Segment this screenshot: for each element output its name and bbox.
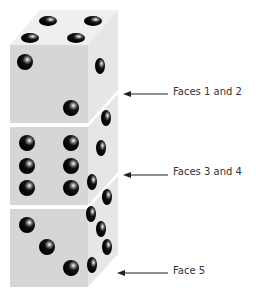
arrow-faces-1-2 [123, 91, 168, 97]
label-faces-3-4: Faces 3 and 4 [173, 166, 242, 177]
label-face-5: Face 5 [173, 265, 205, 276]
arrow-face-5 [117, 270, 168, 276]
arrow-faces-3-4 [123, 172, 168, 178]
stacked-dice-diagram [0, 0, 256, 296]
label-faces-1-2: Faces 1 and 2 [173, 86, 242, 97]
